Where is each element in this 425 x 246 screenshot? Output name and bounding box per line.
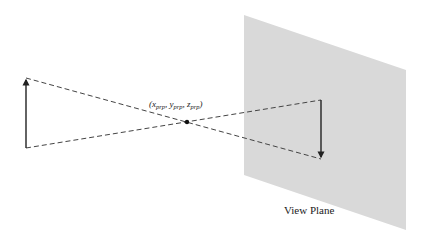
prp-point [185, 120, 189, 124]
perspective-diagram: (xprp, yprp, zprp) View Plane [0, 0, 425, 246]
view-plane-label: View Plane [284, 204, 334, 216]
prp-label: (xprp, yprp, zprp) [149, 99, 203, 110]
view-plane [244, 15, 406, 230]
